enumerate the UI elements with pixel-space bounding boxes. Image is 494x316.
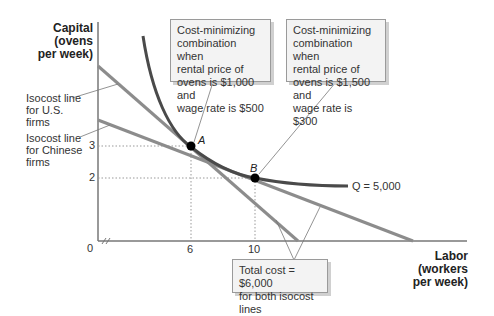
label-line: for Chinese: [26, 144, 82, 156]
us-isocost-label: Isocost line for U.S. firms: [26, 92, 81, 128]
callout-line: ovens is $1,500 and: [293, 76, 379, 102]
callout-line: combination when: [293, 37, 379, 63]
label-line: Isocost line: [26, 92, 81, 104]
label-line: firms: [26, 156, 82, 168]
total-leader-2: [294, 207, 320, 260]
callout-line: ovens is $1,000 and: [177, 76, 264, 102]
y-title-line: per week): [20, 48, 93, 61]
callout-line: Cost-minimizing: [177, 24, 264, 37]
chinese-leader: [80, 125, 110, 137]
callout-line: for both isocost lines: [239, 290, 321, 316]
callout-line: rental price of: [177, 63, 264, 76]
y-tick-3: 3: [89, 139, 95, 151]
label-line: firms: [26, 116, 81, 128]
isoquant-label: Q = 5,000: [352, 180, 401, 192]
point-b-label: B: [250, 162, 257, 174]
chinese-isocost-label: Isocost line for Chinese firms: [26, 132, 82, 168]
point-b-marker: [251, 174, 260, 183]
callout-a: Cost-minimizing combination when rental …: [170, 19, 271, 82]
label-line: for U.S.: [26, 104, 81, 116]
callout-line: combination when: [177, 37, 264, 63]
y-tick-2: 2: [89, 171, 95, 183]
point-a-label: A: [198, 134, 205, 146]
label-line: Isocost line: [26, 132, 82, 144]
y-axis-title: Capital (ovens per week): [20, 22, 93, 61]
total-leader-1: [276, 220, 294, 260]
callout-line: rental price of: [293, 63, 379, 76]
x-title-line: per week): [410, 276, 468, 289]
callout-line: Cost-minimizing: [293, 24, 379, 37]
callout-total-cost: Total cost = $6,000 for both isocost lin…: [232, 259, 328, 293]
callout-line: Total cost = $6,000: [239, 264, 321, 290]
callout-line: wage rate is $300: [293, 102, 379, 128]
callout-line: wage rate is $500: [177, 102, 264, 115]
x-tick-10: 10: [248, 243, 260, 255]
origin-label: 0: [87, 242, 93, 254]
x-tick-6: 6: [187, 243, 193, 255]
callout-b: Cost-minimizing combination when rental …: [286, 19, 386, 82]
x-axis-title: Labor (workers per week): [410, 250, 468, 289]
point-a-marker: [187, 142, 196, 151]
